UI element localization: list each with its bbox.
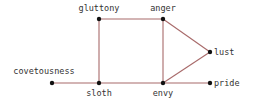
node-label-pride: pride xyxy=(214,78,240,88)
node-covetousness xyxy=(50,81,54,85)
node-anger xyxy=(161,17,165,21)
node-label-sloth: sloth xyxy=(86,88,112,98)
node-sloth xyxy=(97,81,101,85)
node-label-envy: envy xyxy=(153,88,173,98)
node-label-lust: lust xyxy=(214,47,234,57)
node-lust xyxy=(208,50,212,54)
node-label-anger: anger xyxy=(150,3,176,13)
node-pride xyxy=(208,81,212,85)
node-gluttony xyxy=(97,17,101,21)
node-envy xyxy=(161,81,165,85)
graph-svg: gluttonyangerlustcovetousnessslothenvypr… xyxy=(0,0,254,101)
graph-diagram: gluttonyangerlustcovetousnessslothenvypr… xyxy=(0,0,254,101)
node-label-covetousness: covetousness xyxy=(13,66,74,76)
edges xyxy=(52,19,210,83)
edge-lust-envy xyxy=(163,52,210,83)
edge-anger-lust xyxy=(163,19,210,52)
labels: gluttonyangerlustcovetousnessslothenvypr… xyxy=(13,3,239,98)
node-label-gluttony: gluttony xyxy=(79,3,120,13)
